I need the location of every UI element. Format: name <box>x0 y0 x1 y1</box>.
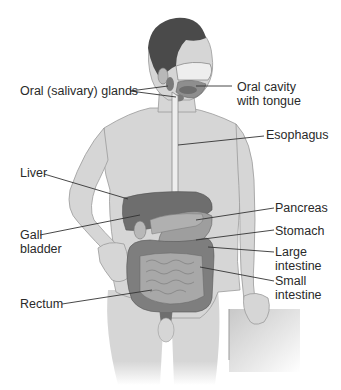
label-liver: Liver <box>20 166 47 180</box>
genitals <box>158 318 174 342</box>
label-rectum: Rectum <box>20 297 63 311</box>
label-pancreas: Pancreas <box>275 201 328 215</box>
label-small-intestine: Small intestine <box>275 274 322 302</box>
gall-bladder-organ <box>134 221 146 239</box>
label-oral-cavity-with-tongue: Oral cavity with tongue <box>237 80 301 108</box>
label-stomach: Stomach <box>275 224 324 238</box>
label-large-intestine: Large intestine <box>275 245 322 273</box>
digestive-system-illustration <box>0 0 341 390</box>
label-gall-bladder: Gall bladder <box>20 228 62 256</box>
nasal-cavity <box>176 62 212 80</box>
tongue <box>179 86 197 94</box>
label-esophagus: Esophagus <box>266 128 329 142</box>
label-oral-salivary-glands: Oral (salivary) glands <box>20 84 138 98</box>
parotid-gland <box>166 77 174 91</box>
